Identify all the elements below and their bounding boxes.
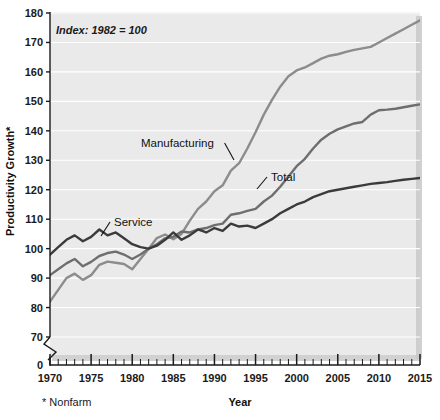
x-tick-label: 1990 <box>202 372 226 384</box>
annotation-label: Manufacturing <box>141 137 214 149</box>
y-tick-label: 140 <box>25 125 43 137</box>
y-tick-label: 160 <box>25 66 43 78</box>
x-tick-label: 2005 <box>326 372 350 384</box>
x-tick-label: 1985 <box>161 372 185 384</box>
y-tick-label: 170 <box>25 36 43 48</box>
x-tick-label: 2000 <box>284 372 308 384</box>
annotation-label: Total <box>271 171 295 183</box>
x-tick-label: 1970 <box>38 372 62 384</box>
annotation-label: Service <box>114 216 152 228</box>
y-tick-label: 110 <box>25 213 43 225</box>
y-tick-label: 130 <box>25 154 43 166</box>
y-axis-title: Productivity Growth* <box>4 126 16 236</box>
y-tick-label: 120 <box>25 184 43 196</box>
y-tick-label: 180 <box>25 7 43 19</box>
y-tick-label: 100 <box>25 243 43 255</box>
x-tick-label: 1975 <box>79 372 103 384</box>
x-axis-title: Year <box>228 396 252 408</box>
productivity-growth-chart: 0708090100110120130140150160170180 19701… <box>0 0 440 420</box>
footnote: * Nonfarm <box>42 396 92 408</box>
x-tick-label: 2015 <box>408 372 432 384</box>
y-tick-label: 150 <box>25 95 43 107</box>
x-tick-label: 2010 <box>367 372 391 384</box>
x-tick-label: 1995 <box>243 372 267 384</box>
chart-canvas: 0708090100110120130140150160170180 19701… <box>0 0 440 420</box>
y-tick-label: 90 <box>31 272 43 284</box>
y-tick-label: 70 <box>31 331 43 343</box>
y-tick-label: 80 <box>31 302 43 314</box>
y-tick-label: 0 <box>37 359 43 371</box>
plot-area-background <box>50 12 420 355</box>
index-note: Index: 1982 = 100 <box>56 24 148 36</box>
x-tick-label: 1980 <box>120 372 144 384</box>
